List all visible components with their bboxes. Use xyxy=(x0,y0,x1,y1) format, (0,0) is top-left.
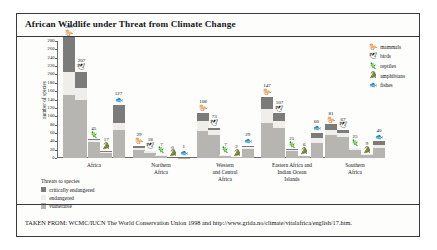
bar-reptiles[interactable] xyxy=(349,148,361,158)
bar-value-label: 73 xyxy=(212,114,217,119)
threats-legend-item[interactable]: endangered xyxy=(41,194,95,202)
bird-icon: 🕊 xyxy=(146,143,154,150)
bar-birds[interactable] xyxy=(208,128,220,159)
bar-segment-crit xyxy=(261,97,273,109)
bar-segment-vuln xyxy=(337,137,349,158)
bar-segment-vuln xyxy=(325,135,337,158)
y-axis-tick-mark xyxy=(55,74,57,75)
bar-mammals[interactable] xyxy=(261,97,273,158)
bar-birds[interactable] xyxy=(273,113,285,158)
bar-segment-vuln xyxy=(298,156,310,158)
bar-value-label: 0 xyxy=(171,145,174,150)
species-legend: 🐎mammals🕊birds🦎reptiles🐊amphibians🐟fishe… xyxy=(367,42,405,90)
bar-segment-vuln xyxy=(361,155,373,158)
reptile-icon: 🦎 xyxy=(157,147,165,154)
species-legend-item[interactable]: 🐟fishes xyxy=(367,80,405,90)
bar-value-label: 29 xyxy=(137,132,142,137)
fish-icon: 🐟 xyxy=(115,97,123,104)
bar-reptiles[interactable] xyxy=(155,155,167,158)
bar-fishes[interactable] xyxy=(373,141,385,158)
bar-chart-plot-area: number of species 0204060801001201401601… xyxy=(57,41,367,158)
bar-group: 🐎108🕊73🦎7🐊2🐟29Westernand CentralAfrica xyxy=(197,41,253,158)
bar-amphibians[interactable] xyxy=(361,154,373,158)
species-legend-label: mammals xyxy=(380,44,401,50)
mammal-icon: 🐎 xyxy=(367,44,378,51)
mammal-icon: 🐎 xyxy=(199,105,207,112)
y-axis-tick-label: 60 xyxy=(50,131,55,136)
bar-segment-vuln xyxy=(144,153,156,158)
bar-mammals[interactable] xyxy=(63,37,75,158)
y-axis-tick-mark xyxy=(55,58,57,59)
bar-birds[interactable] xyxy=(144,150,156,158)
bar-reptiles[interactable] xyxy=(286,149,298,158)
reptile-icon: 🦎 xyxy=(367,63,378,70)
species-legend-label: birds xyxy=(380,53,391,59)
threats-legend-item[interactable]: critically endangered xyxy=(41,186,95,194)
y-axis-tick-label: 160 xyxy=(48,89,55,94)
species-legend-item[interactable]: 🕊birds xyxy=(367,52,405,62)
bar-value-label: 25 xyxy=(353,134,358,139)
bar-value-label: 108 xyxy=(199,99,207,104)
y-axis-tick-label: 100 xyxy=(48,114,55,119)
bar-amphibians[interactable] xyxy=(231,157,243,158)
amphibian-icon: 🐊 xyxy=(233,150,241,157)
bar-amphibians[interactable] xyxy=(100,151,112,158)
bar-fishes[interactable] xyxy=(242,146,254,158)
fish-icon: 🐟 xyxy=(375,134,383,141)
bar-amphibians[interactable] xyxy=(298,156,310,159)
y-axis-tick-label: 220 xyxy=(48,64,55,69)
reptile-icon: 🦎 xyxy=(221,147,229,154)
y-axis-tick-label: 80 xyxy=(50,122,55,127)
y-axis-tick-label: 180 xyxy=(48,80,55,85)
x-axis-group-label: Africa xyxy=(87,162,101,169)
y-axis-tick-mark xyxy=(55,116,57,117)
threats-legend-label: critically endangered xyxy=(49,187,94,193)
y-axis-tick-mark xyxy=(55,41,57,42)
bird-icon: 🕊 xyxy=(339,122,347,129)
species-legend-item[interactable]: 🦎reptiles xyxy=(367,61,405,71)
y-axis-tick-mark xyxy=(55,125,57,126)
bar-segment-vuln xyxy=(113,130,125,158)
bar-segment-vuln xyxy=(197,131,209,158)
fish-icon: 🐟 xyxy=(244,138,252,145)
reptile-icon: 🦎 xyxy=(351,140,359,147)
y-axis-label: number of species xyxy=(41,81,47,119)
bar-birds[interactable] xyxy=(337,130,349,158)
y-axis-tick-label: 260 xyxy=(48,47,55,52)
bar-reptiles[interactable] xyxy=(219,155,231,158)
x-axis-group-label: SouthernAfrica xyxy=(345,162,364,176)
species-legend-item[interactable]: 🐊amphibians xyxy=(367,71,405,81)
amphibian-icon: 🐊 xyxy=(363,147,371,154)
bird-icon: 🕊 xyxy=(367,53,378,60)
bar-segment-vuln xyxy=(88,142,100,158)
bar-segment-endg xyxy=(261,109,273,123)
species-legend-label: fishes xyxy=(380,82,393,88)
y-axis-tick-mark xyxy=(55,83,57,84)
fish-icon: 🐟 xyxy=(367,82,378,89)
bar-mammals[interactable] xyxy=(133,146,145,158)
bar-segment-crit xyxy=(197,113,209,121)
bar-value-label: 127 xyxy=(115,91,123,96)
bar-value-label: 45 xyxy=(91,126,96,131)
bar-mammals[interactable] xyxy=(197,113,209,158)
y-axis-tick-label: 0 xyxy=(52,156,54,161)
source-note: TAKEN FROM: WCMC/IUCN The World Conserva… xyxy=(25,218,411,228)
bar-mammals[interactable] xyxy=(325,124,337,158)
species-legend-label: reptiles xyxy=(380,63,396,69)
species-legend-item[interactable]: 🐎mammals xyxy=(367,42,405,52)
bar-reptiles[interactable] xyxy=(88,139,100,158)
source-divider xyxy=(17,204,419,205)
bar-segment-vuln xyxy=(231,157,243,158)
bar-group: 🐎29🕊18🦎7🐊0🐟1NorthernAfrica xyxy=(133,41,189,158)
bar-fishes[interactable] xyxy=(113,105,125,158)
y-axis-tick-label: 280 xyxy=(48,39,55,44)
bar-value-label: 7 xyxy=(160,142,163,147)
bar-value-label: 107 xyxy=(276,100,284,105)
bird-icon: 🕊 xyxy=(210,120,218,127)
bar-fishes[interactable] xyxy=(311,133,323,158)
bar-segment-vuln xyxy=(219,156,231,159)
bar-birds[interactable] xyxy=(75,72,87,158)
bar-value-label: 9 xyxy=(366,141,369,146)
title-divider xyxy=(17,36,419,37)
bar-segment-crit xyxy=(273,113,285,121)
